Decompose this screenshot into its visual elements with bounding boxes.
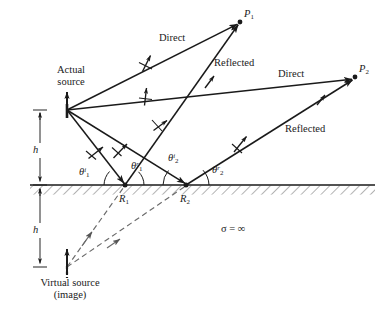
figure-canvas: Actual source Virtual source (image) Dir…	[0, 0, 380, 316]
p1-subscript: 1	[250, 13, 253, 20]
polarization-cross-ticks	[86, 63, 242, 160]
actual-source-line2: source	[57, 76, 84, 87]
point-r1-label: R1	[119, 193, 129, 206]
arc-theta-i1	[104, 172, 110, 186]
theta-i2-subscript: 2	[175, 157, 178, 164]
angle-theta-r1-label: θr1	[131, 160, 142, 173]
dot-p1	[238, 20, 243, 25]
ray-diagram-svg	[0, 0, 380, 316]
height-label-lower: h	[33, 224, 38, 236]
dot-r1	[123, 183, 128, 188]
r1-subscript: 1	[125, 198, 128, 205]
conductivity-label: σ = ∞	[221, 223, 245, 235]
p2-subscript: 2	[365, 68, 368, 75]
actual-source-label: Actual source	[40, 64, 102, 88]
actual-source-line1: Actual	[57, 64, 85, 75]
point-r2-label: R2	[180, 193, 190, 206]
virtual-source-line1: Virtual source	[40, 277, 99, 288]
r2-subscript: 2	[186, 198, 189, 205]
theta-r1-subscript: 1	[139, 165, 142, 172]
image-ray-to-r1	[67, 186, 124, 267]
angle-theta-i2-label: θi2	[168, 152, 179, 165]
incident-ray-to-r1	[67, 110, 124, 183]
reflected-rays	[125, 25, 353, 185]
direct-label-1: Direct	[159, 32, 185, 44]
angle-theta-r2-label: θr2	[212, 164, 223, 177]
height-label-upper: h	[33, 144, 38, 156]
dot-r2	[184, 183, 189, 188]
reflected-ray-r2-to-p2	[186, 80, 353, 185]
arc-theta-r1	[139, 172, 145, 185]
theta-i1-subscript: 1	[86, 171, 89, 178]
point-p1-label: P1	[244, 8, 254, 21]
dot-p2	[353, 75, 358, 80]
ground-plane	[30, 185, 375, 195]
direct-ray-to-p2	[67, 79, 352, 110]
point-p2-label: P2	[359, 63, 369, 76]
direct-label-2: Direct	[278, 68, 304, 80]
angle-theta-i1-label: θi1	[79, 166, 90, 179]
reflected-label-2: Reflected	[285, 123, 325, 135]
direct-rays	[67, 24, 352, 110]
reflected-label-1: Reflected	[214, 57, 254, 69]
virtual-source-line2: (image)	[54, 289, 87, 300]
virtual-source-label: Virtual source (image)	[15, 277, 125, 301]
theta-r2-subscript: 2	[220, 169, 223, 176]
